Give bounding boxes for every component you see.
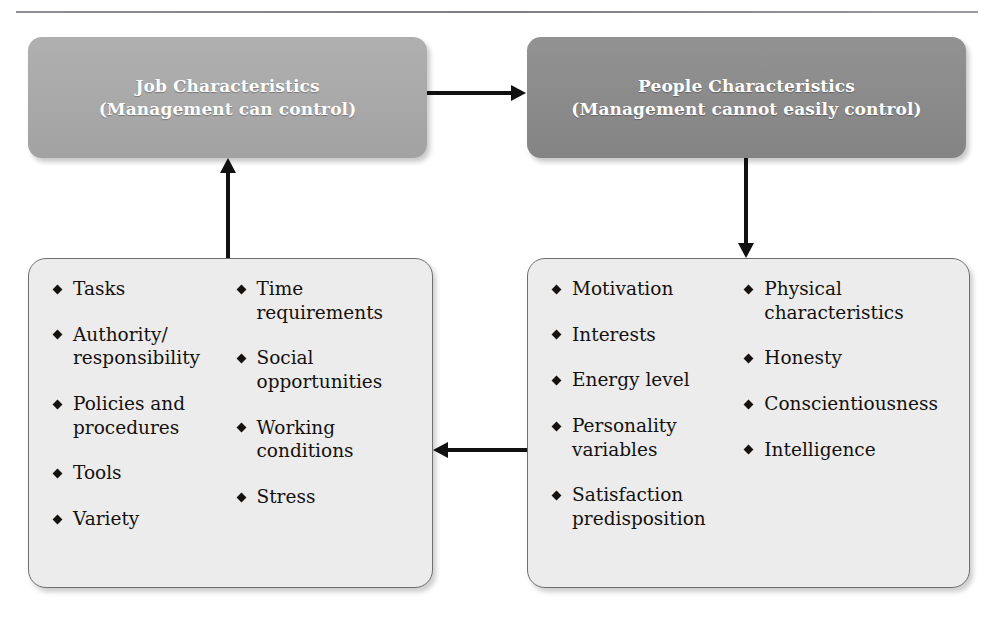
list-item-label: Tasks	[73, 278, 125, 299]
diamond-bullet-icon	[552, 421, 562, 431]
people-list-column-2: Physical characteristics Honesty Conscie…	[740, 277, 953, 573]
list-item-label: Intelligence	[764, 439, 875, 460]
list-item-label: Policies and procedures	[73, 393, 185, 438]
people-characteristics-subtitle: (Management cannot easily control)	[571, 98, 921, 121]
list-item: Variety	[53, 507, 231, 531]
people-characteristics-header-text: People Characteristics (Management canno…	[571, 75, 921, 121]
list-item-label: Variety	[73, 508, 139, 529]
list-item-label: Social opportunities	[257, 347, 383, 392]
list-item-label: Energy level	[572, 369, 690, 390]
people-characteristics-list-box: Motivation Interests Energy level Person…	[527, 258, 970, 588]
job-characteristics-title: Job Characteristics	[99, 75, 357, 98]
arrow-people-to-items-shaft	[744, 158, 748, 246]
diamond-bullet-icon	[53, 284, 63, 294]
list-item-label: Working conditions	[257, 417, 354, 462]
list-item: Authority/ responsibility	[53, 323, 231, 370]
diamond-bullet-icon	[744, 284, 754, 294]
people-characteristics-header-box: People Characteristics (Management canno…	[527, 37, 966, 158]
list-item-label: Stress	[257, 486, 316, 507]
diagram-canvas: Job Characteristics (Management can cont…	[0, 0, 994, 617]
diamond-bullet-icon	[744, 353, 754, 363]
diamond-bullet-icon	[53, 514, 63, 524]
arrow-job-items-to-job-head	[220, 158, 236, 173]
list-item-label: Time requirements	[257, 278, 384, 323]
diamond-bullet-icon	[53, 468, 63, 478]
list-item: Working conditions	[237, 416, 417, 463]
list-item: Policies and procedures	[53, 392, 231, 439]
list-item-label: Honesty	[764, 347, 842, 368]
list-item: Satisfaction predisposition	[552, 483, 740, 530]
list-item: Interests	[552, 323, 740, 347]
diamond-bullet-icon	[236, 492, 246, 502]
list-item: Motivation	[552, 277, 740, 301]
job-list-column-1: Tasks Authority/ responsibility Policies…	[45, 277, 231, 573]
diamond-bullet-icon	[53, 399, 63, 409]
arrow-people-to-items-head	[738, 243, 754, 258]
arrow-people-items-to-job-items-head	[433, 442, 448, 458]
diamond-bullet-icon	[552, 490, 562, 500]
list-item-label: Interests	[572, 324, 656, 345]
arrow-job-to-people-shaft	[427, 91, 512, 95]
arrow-job-items-to-job-shaft	[226, 172, 230, 258]
list-item-label: Motivation	[572, 278, 673, 299]
people-characteristics-title: People Characteristics	[571, 75, 921, 98]
list-item-label: Conscientiousness	[764, 393, 938, 414]
list-item: Stress	[237, 485, 417, 509]
diamond-bullet-icon	[236, 353, 246, 363]
diamond-bullet-icon	[552, 330, 562, 340]
list-item: Conscientiousness	[744, 392, 953, 416]
diamond-bullet-icon	[236, 284, 246, 294]
diamond-bullet-icon	[552, 375, 562, 385]
diamond-bullet-icon	[744, 399, 754, 409]
arrow-people-items-to-job-items-shaft	[448, 448, 527, 452]
list-item-label: Tools	[73, 462, 122, 483]
diamond-bullet-icon	[236, 423, 246, 433]
diamond-bullet-icon	[744, 445, 754, 455]
list-item: Intelligence	[744, 438, 953, 462]
list-item-label: Satisfaction predisposition	[572, 484, 706, 529]
list-item: Energy level	[552, 368, 740, 392]
list-item: Honesty	[744, 346, 953, 370]
diamond-bullet-icon	[53, 330, 63, 340]
job-list-column-2: Time requirements Social opportunities W…	[231, 277, 417, 573]
job-characteristics-header-box: Job Characteristics (Management can cont…	[28, 37, 427, 158]
list-item: Social opportunities	[237, 346, 417, 393]
job-characteristics-header-text: Job Characteristics (Management can cont…	[99, 75, 357, 121]
diamond-bullet-icon	[552, 284, 562, 294]
list-item: Personality variables	[552, 414, 740, 461]
job-characteristics-subtitle: (Management can control)	[99, 98, 357, 121]
list-item-label: Physical characteristics	[764, 278, 903, 323]
list-item: Time requirements	[237, 277, 417, 324]
people-list-column-1: Motivation Interests Energy level Person…	[544, 277, 740, 573]
top-rule-divider	[16, 11, 978, 13]
list-item: Tasks	[53, 277, 231, 301]
list-item: Physical characteristics	[744, 277, 953, 324]
arrow-job-to-people-head	[511, 85, 526, 101]
job-characteristics-list-box: Tasks Authority/ responsibility Policies…	[28, 258, 433, 588]
list-item: Tools	[53, 461, 231, 485]
list-item-label: Authority/ responsibility	[73, 324, 200, 369]
list-item-label: Personality variables	[572, 415, 677, 460]
